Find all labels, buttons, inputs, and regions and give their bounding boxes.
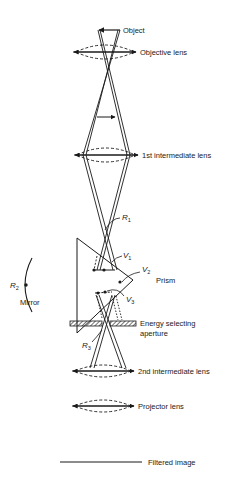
rays-lower xyxy=(90,295,126,368)
objective-lens-label: Objective lens xyxy=(140,48,187,57)
prism-label: Prism xyxy=(156,276,175,285)
r3-leader xyxy=(92,330,102,342)
r1-label: R1 xyxy=(122,213,131,223)
v2-label: V2 xyxy=(142,265,150,275)
mirror-label: Mirror xyxy=(20,298,40,307)
aperture-label-line1: Energy selecting xyxy=(140,319,195,328)
ray-diagram: Object Objective lens 1st intermediate l… xyxy=(0,0,230,483)
object-label: Object xyxy=(123,26,146,35)
second-intermediate-lens-label: 2nd intermediate lens xyxy=(138,367,210,376)
aperture-label-line2: aperture xyxy=(140,329,168,338)
projector-lens xyxy=(72,400,134,412)
r1-leader xyxy=(105,218,120,230)
filtered-image-label: Filtered image xyxy=(148,458,196,467)
second-intermediate-lens xyxy=(72,365,134,377)
v3-label: V3 xyxy=(126,295,134,305)
first-intermediate-lens-label: 1st intermediate lens xyxy=(142,151,211,160)
projector-lens-label: Projector lens xyxy=(138,402,184,411)
v1-label: V1 xyxy=(123,251,131,261)
r3-label: R3 xyxy=(82,341,91,351)
v2-point xyxy=(118,272,140,284)
rays-upper xyxy=(83,30,130,155)
r2-label: R2 xyxy=(10,281,19,291)
